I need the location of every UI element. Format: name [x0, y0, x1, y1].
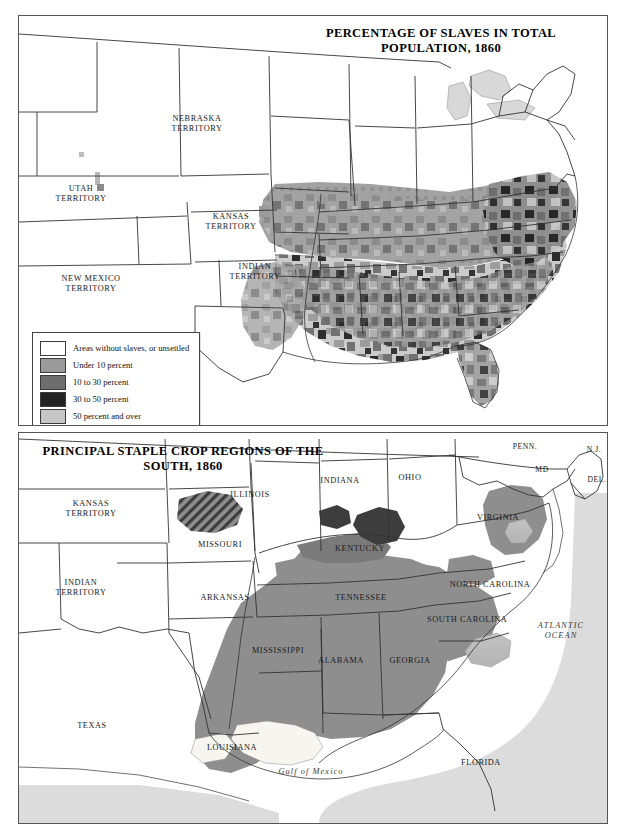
legend-swatch-30-to-50: [40, 392, 66, 407]
legend-label: 50 percent and over: [73, 412, 141, 422]
page-root: PERCENTAGE OF SLAVES IN TOTAL POPULATION…: [0, 0, 624, 840]
legend-swatch-under-10: [40, 358, 66, 373]
legend-item: Areas without slaves, or unsettled: [40, 341, 192, 356]
map-principal-staple-crop-regions: PRINCIPAL STAPLE CROP REGIONS OF THE SOU…: [18, 432, 608, 824]
map-percentage-of-slaves: PERCENTAGE OF SLAVES IN TOTAL POPULATION…: [18, 15, 608, 426]
legend-label: Areas without slaves, or unsettled: [73, 344, 189, 354]
legend-label: 30 to 50 percent: [73, 395, 129, 405]
legend-label: 10 to 30 percent: [73, 378, 129, 388]
legend-swatch-50-and-over: [40, 409, 66, 424]
legend-item: Under 10 percent: [40, 358, 192, 373]
legend-swatch-no-slaves: [40, 341, 66, 356]
legend-item: 30 to 50 percent: [40, 392, 192, 407]
legend-label: Under 10 percent: [73, 361, 133, 371]
legend-swatch-10-to-30: [40, 375, 66, 390]
legend-item: 10 to 30 percent: [40, 375, 192, 390]
map-crops-graphic: [19, 433, 607, 823]
legend-item: 50 percent and over: [40, 409, 192, 424]
map-crops-title: PRINCIPAL STAPLE CROP REGIONS OF THE SOU…: [33, 444, 333, 475]
legend-percentage-of-slaves: Areas without slaves, or unsettled Under…: [32, 332, 200, 426]
map-slaves-title: PERCENTAGE OF SLAVES IN TOTAL POPULATION…: [291, 26, 591, 57]
